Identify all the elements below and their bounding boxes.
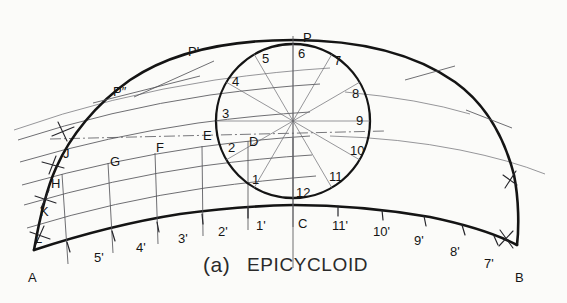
base-label-5-prime: 5' <box>94 250 104 265</box>
label-point-P-prime: P' <box>188 44 199 59</box>
label-point-G: G <box>110 154 120 169</box>
label-point-H: H <box>51 176 60 191</box>
circle-number-6: 6 <box>298 46 305 61</box>
base-label-8-prime: 8' <box>450 244 460 259</box>
label-point-K: K <box>40 204 49 219</box>
label-point-P: P <box>303 30 312 45</box>
epicycloid-drawing: .heavy{fill:none;stroke:#141414;stroke-w… <box>0 0 567 303</box>
circle-number-10: 10 <box>350 143 364 158</box>
circle-number-12: 12 <box>296 185 310 200</box>
base-label-11-prime: 11' <box>332 218 348 233</box>
label-point-B: B <box>515 270 524 285</box>
base-label-2-prime: 2' <box>218 224 228 239</box>
circle-number-11: 11 <box>329 169 343 184</box>
base-label-3-prime: 3' <box>178 231 188 246</box>
base-label-9-prime: 9' <box>414 233 424 248</box>
circle-number-7: 7 <box>334 53 341 68</box>
label-point-P-double-prime: P″ <box>113 84 127 99</box>
circle-number-5: 5 <box>262 51 269 66</box>
circle-number-1: 1 <box>252 172 259 187</box>
circle-number-2: 2 <box>228 140 235 155</box>
caption-prefix: (a) <box>203 253 230 276</box>
circle-number-4: 4 <box>232 74 239 89</box>
label-point-L: L <box>35 231 42 246</box>
base-label-4-prime: 4' <box>136 240 146 255</box>
epicycloid-figure: .heavy{fill:none;stroke:#141414;stroke-w… <box>0 0 567 303</box>
label-point-F: F <box>156 140 164 155</box>
label-point-A: A <box>28 270 37 285</box>
base-label-1-prime: 1' <box>256 218 266 233</box>
label-point-E: E <box>203 128 212 143</box>
base-label-C: C <box>298 216 307 231</box>
label-point-J: J <box>63 146 70 161</box>
label-point-D: D <box>249 134 258 149</box>
base-label-10-prime: 10' <box>373 224 390 239</box>
circle-number-9: 9 <box>356 113 363 128</box>
circle-number-8: 8 <box>352 86 359 101</box>
circle-number-3: 3 <box>222 106 229 121</box>
base-label-7-prime: 7' <box>484 256 494 271</box>
caption-text: EPICYCLOID <box>247 254 368 275</box>
